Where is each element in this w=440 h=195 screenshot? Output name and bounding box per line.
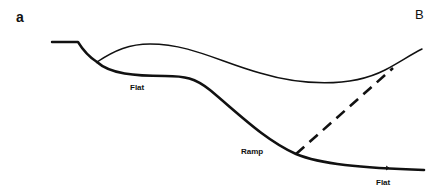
label-ramp: Ramp: [241, 148, 263, 156]
label-flat-upper: Flat: [130, 84, 144, 92]
initial-flat-segment: [52, 42, 97, 62]
label-flat-lower: Flat: [376, 179, 390, 187]
diagram-figure: a B Flat Ramp Flat: [0, 0, 440, 195]
fault-geometry-diagram: [0, 0, 440, 195]
panel-label-b: B: [415, 8, 424, 21]
thin-upper-curve: [97, 44, 422, 83]
panel-label-a: a: [16, 10, 24, 24]
